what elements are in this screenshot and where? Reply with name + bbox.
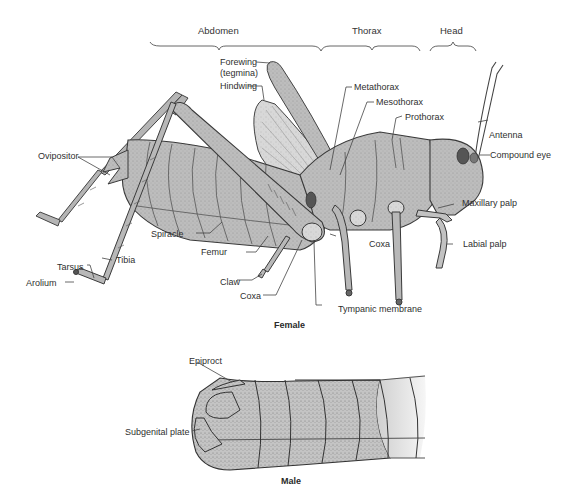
label-coxa-hind: Coxa (240, 291, 261, 301)
region-braces (150, 42, 476, 51)
compound-eye (457, 148, 469, 164)
label-tarsus: Tarsus (57, 262, 84, 272)
abdomen-brace (150, 42, 321, 51)
label-arolium: Arolium (26, 278, 57, 288)
label-spiracle: Spiracle (151, 229, 184, 239)
male-abdomen (192, 375, 426, 470)
palps (416, 210, 452, 268)
label-maxillary-palp: Maxillary palp (462, 198, 517, 208)
head-brace (430, 42, 476, 51)
diagram-stage: Abdomen Thorax Head Forewing (tegmina) H… (0, 0, 570, 497)
label-tympanic-membrane: Tympanic membrane (338, 304, 422, 314)
label-antenna: Antenna (489, 130, 523, 140)
label-metathorax: Metathorax (354, 82, 399, 92)
label-compound-eye: Compound eye (490, 150, 551, 160)
label-claw: Claw (220, 277, 240, 287)
region-label-abdomen: Abdomen (198, 25, 239, 36)
label-subgenital-plate: Subgenital plate (125, 427, 190, 437)
label-femur: Femur (201, 247, 227, 257)
label-forewing: Forewing (220, 57, 257, 67)
caption-female: Female (274, 320, 305, 330)
label-ovipositor: Ovipositor (38, 151, 79, 161)
hind-coxa (302, 223, 322, 241)
thorax-brace (321, 46, 420, 51)
label-mesothorax: Mesothorax (376, 97, 423, 107)
label-prothorax: Prothorax (405, 112, 444, 122)
label-forewing-alt: (tegmina) (220, 68, 258, 78)
tympanic-membrane-spot (306, 192, 316, 208)
label-tibia: Tibia (116, 255, 135, 265)
region-label-thorax: Thorax (352, 25, 382, 36)
label-epiproct: Epiproct (189, 356, 222, 366)
label-hindwing: Hindwing (220, 81, 257, 91)
label-coxa-front: Coxa (369, 239, 390, 249)
ovipositor (103, 150, 128, 184)
label-labial-palp: Labial palp (463, 239, 507, 249)
front-coxa (350, 210, 366, 226)
region-label-head: Head (440, 25, 463, 36)
antennae (475, 62, 503, 160)
caption-male: Male (281, 476, 301, 486)
